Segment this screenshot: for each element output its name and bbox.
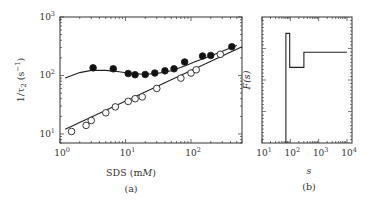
open-data-point — [83, 122, 90, 129]
panel-a-y-axis-label: 1/τ2 (s−1) — [14, 58, 28, 103]
open-data-point — [88, 117, 95, 124]
filled-data-point — [199, 53, 206, 60]
svg-text:101: 101 — [39, 127, 55, 139]
panel-b-ticks — [262, 17, 352, 143]
svg-text:102: 102 — [285, 146, 301, 158]
panel-b-label: (b) — [302, 181, 316, 192]
figure: 100101102101102103 SDS (mM) 1/τ2 (s−1) (… — [0, 0, 385, 209]
step-line — [286, 33, 347, 143]
filled-data-point — [90, 65, 97, 72]
open-data-point — [112, 104, 119, 111]
open-data-point — [125, 98, 132, 105]
filled-data-point — [125, 70, 132, 77]
svg-text:102: 102 — [39, 68, 55, 80]
open-data-point — [102, 109, 109, 116]
svg-text:101: 101 — [120, 146, 136, 158]
svg-text:102: 102 — [185, 146, 201, 158]
open-data-point — [132, 95, 139, 102]
open-data-point — [153, 85, 160, 92]
panel-a-label: (a) — [124, 183, 137, 194]
panel-b-step-line — [286, 33, 347, 143]
open-data-point — [139, 94, 146, 101]
filled-data-point — [207, 52, 214, 59]
filled-data-point — [181, 59, 188, 66]
svg-text:100: 100 — [54, 146, 70, 158]
panel-b-y-axis-label: F(s) — [241, 70, 252, 90]
panel-a-tick-labels: 100101102101102103 — [39, 10, 200, 158]
filled-data-point — [152, 70, 159, 77]
filled-data-point — [229, 43, 236, 50]
panel-b-tick-labels: 101102103104 — [256, 146, 357, 158]
svg-text:101: 101 — [256, 146, 272, 158]
panel-a-plot: 100101102101102103 SDS (mM) 1/τ2 (s−1) (… — [14, 10, 242, 194]
filled-data-point — [110, 66, 117, 73]
svg-text:103: 103 — [313, 146, 329, 158]
filled-data-point — [171, 66, 178, 73]
open-data-point — [217, 51, 224, 58]
filled-data-point — [132, 71, 139, 78]
svg-text:104: 104 — [341, 146, 357, 158]
open-data-point — [193, 67, 200, 74]
panel-b-x-axis-label: s — [307, 165, 312, 176]
open-data-point — [178, 75, 185, 82]
panel-a-x-axis-label: SDS (mM) — [106, 167, 156, 178]
filled-data-point — [162, 68, 169, 75]
panel-b-frame — [262, 17, 352, 143]
panel-b-plot: 101102103104 s F(s) (b) — [241, 17, 357, 192]
svg-text:103: 103 — [39, 10, 55, 22]
filled-data-point — [142, 71, 149, 78]
open-data-point — [68, 128, 75, 135]
